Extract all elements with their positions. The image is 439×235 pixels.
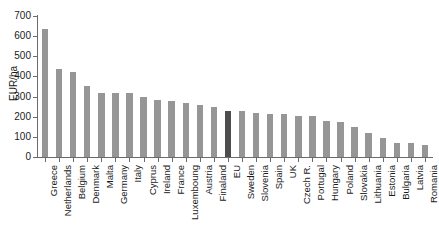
- x-category-label: Denmark: [91, 165, 100, 204]
- y-tick-mark: [33, 117, 37, 118]
- bar-netherlands: [56, 69, 62, 157]
- bar-romania: [422, 145, 428, 157]
- y-tick-label: 300: [14, 92, 31, 102]
- x-category-label: Latvia: [415, 165, 424, 190]
- x-category-label: Estonia: [387, 165, 396, 197]
- x-tick-mark: [383, 158, 384, 162]
- x-tick-mark: [144, 158, 145, 162]
- x-category-label: Cyprus: [148, 165, 157, 195]
- bar-italy: [126, 93, 132, 157]
- x-category-label: France: [176, 165, 185, 195]
- x-category-label: UK: [288, 165, 297, 178]
- x-category-label: Ireland: [162, 165, 171, 194]
- x-tick-mark: [355, 158, 356, 162]
- x-tick-mark: [73, 158, 74, 162]
- bar-eu: [225, 111, 231, 157]
- bar-lithuania: [365, 133, 371, 157]
- y-tick-mark: [33, 76, 37, 77]
- bar-slovenia: [253, 113, 259, 157]
- x-tick-mark: [326, 158, 327, 162]
- x-tick-mark: [369, 158, 370, 162]
- x-tick-mark: [256, 158, 257, 162]
- x-tick-mark: [312, 158, 313, 162]
- y-tick-label: 500: [14, 51, 31, 61]
- bar-estonia: [380, 138, 386, 157]
- x-category-label: Malta: [105, 165, 114, 188]
- bar-spain: [267, 114, 273, 158]
- y-tick-label: 400: [14, 71, 31, 81]
- y-tick-mark: [33, 97, 37, 98]
- y-tick-label: 0: [25, 152, 31, 162]
- bar-france: [168, 101, 174, 157]
- x-tick-mark: [172, 158, 173, 162]
- bar-portugal: [309, 116, 315, 157]
- x-category-label: Luxemboung: [190, 165, 199, 220]
- plot-area: [38, 16, 432, 157]
- bar-sweden: [239, 111, 245, 157]
- y-tick-label: 700: [14, 11, 31, 21]
- bar-belgium: [70, 72, 76, 157]
- x-tick-mark: [200, 158, 201, 162]
- y-tick-mark: [33, 36, 37, 37]
- x-category-label: Sweden: [246, 165, 255, 199]
- x-axis-line: [37, 157, 433, 158]
- x-category-label: Portugal: [316, 165, 325, 200]
- x-category-label: Czech R.: [302, 165, 311, 204]
- y-tick-mark: [33, 16, 37, 17]
- x-tick-mark: [228, 158, 229, 162]
- x-category-label: Lithuania: [373, 165, 382, 204]
- bar-chart: EUR/ha 0100200300400500600700 GreeceNeth…: [0, 0, 439, 235]
- x-category-label: Austria: [204, 165, 213, 195]
- x-category-label: EU: [232, 165, 241, 178]
- x-category-label: Belgium: [77, 165, 86, 199]
- bar-malta: [98, 93, 104, 157]
- y-axis-label: EUR/ha: [8, 54, 19, 114]
- bar-czech-r-: [295, 116, 301, 157]
- x-tick-mark: [214, 158, 215, 162]
- x-category-label: Slovenia: [260, 165, 269, 201]
- x-category-label: Poland: [345, 165, 354, 195]
- x-tick-mark: [341, 158, 342, 162]
- bar-slovakia: [351, 127, 357, 157]
- x-tick-mark: [298, 158, 299, 162]
- x-tick-mark: [411, 158, 412, 162]
- x-category-label: Bulgaria: [401, 165, 410, 200]
- x-tick-mark: [158, 158, 159, 162]
- x-category-label: Greece: [49, 165, 58, 196]
- x-category-label: Germany: [119, 165, 128, 204]
- y-tick-label: 200: [14, 112, 31, 122]
- bar-denmark: [84, 86, 90, 157]
- x-tick-mark: [129, 158, 130, 162]
- x-tick-mark: [270, 158, 271, 162]
- bar-austria: [197, 105, 203, 157]
- bar-finaland: [211, 107, 217, 157]
- bar-luxemboung: [183, 103, 189, 157]
- x-category-label: Netherlands: [63, 165, 72, 216]
- y-tick-mark: [33, 56, 37, 57]
- y-tick-mark: [33, 137, 37, 138]
- x-tick-mark: [397, 158, 398, 162]
- y-tick-mark: [33, 157, 37, 158]
- bar-ireland: [154, 100, 160, 157]
- bar-uk: [281, 114, 287, 157]
- x-category-label: Slovakia: [359, 165, 368, 201]
- bar-latvia: [408, 143, 414, 157]
- y-tick-label: 100: [14, 132, 31, 142]
- x-category-label: Italy: [133, 165, 142, 182]
- y-tick-label: 600: [14, 31, 31, 41]
- x-tick-mark: [284, 158, 285, 162]
- x-tick-mark: [186, 158, 187, 162]
- x-tick-mark: [242, 158, 243, 162]
- bar-germany: [112, 93, 118, 157]
- x-tick-mark: [45, 158, 46, 162]
- x-tick-mark: [87, 158, 88, 162]
- bar-cyprus: [140, 97, 146, 157]
- x-tick-mark: [59, 158, 60, 162]
- bar-bulgaria: [394, 143, 400, 158]
- bar-greece: [42, 29, 48, 157]
- x-category-label: Hungary: [330, 165, 339, 201]
- x-category-label: Romania: [429, 165, 438, 203]
- x-tick-mark: [101, 158, 102, 162]
- x-category-label: Spain: [274, 165, 283, 189]
- bar-poland: [337, 122, 343, 157]
